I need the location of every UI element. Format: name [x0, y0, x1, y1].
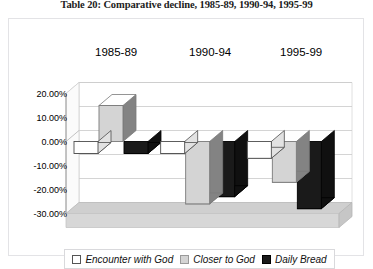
- chart-frame: 1985-89 1990-94 1995-99 20.00% 10.00% 0.…: [8, 18, 364, 256]
- legend-label-0: Encounter with God: [85, 254, 173, 265]
- category-label-1: 1990-94: [189, 46, 231, 58]
- legend-item-0: Encounter with God: [72, 254, 173, 265]
- table-caption: Table 20: Comparative decline, 1985-89, …: [0, 0, 373, 11]
- category-label-0: 1985-89: [95, 46, 137, 58]
- legend-swatch-closer-to-god: [180, 255, 189, 264]
- y-tick-label-5: -30.00%: [13, 209, 67, 219]
- category-label-2: 1995-99: [280, 46, 322, 58]
- legend-swatch-encounter-with-god: [72, 255, 81, 264]
- y-tick-label-1: 10.00%: [13, 113, 67, 123]
- legend-label-1: Closer to God: [193, 254, 255, 265]
- bar-0-1: [99, 95, 136, 142]
- y-tick-label-2: 0.00%: [13, 137, 67, 147]
- legend-swatch-daily-bread: [262, 255, 271, 264]
- y-tick-label-0: 20.00%: [13, 89, 67, 99]
- legend-label-2: Daily Bread: [275, 254, 327, 265]
- chart-legend: Encounter with God Closer to God Daily B…: [64, 249, 335, 269]
- y-tick-label-3: -10.00%: [13, 161, 67, 171]
- legend-item-2: Daily Bread: [262, 254, 327, 265]
- legend-item-1: Closer to God: [180, 254, 255, 265]
- y-tick-label-4: -20.00%: [13, 185, 67, 195]
